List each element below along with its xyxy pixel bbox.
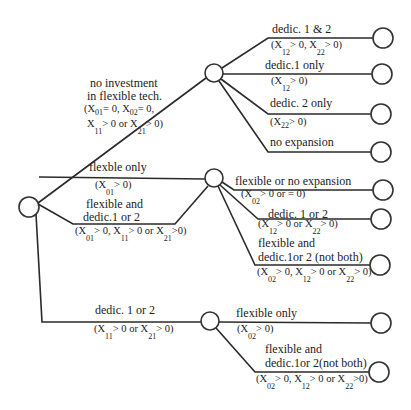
label-c-flexible-only: flexible only	[236, 307, 297, 319]
label-b-flexible-or-no-expansion: flexible or no expansion	[235, 175, 351, 187]
label-no-investment-line1: no investment	[90, 77, 158, 89]
leaf-node-b1	[373, 180, 393, 200]
label-dedic-1-or-2: dedic. 1 or 2	[95, 304, 155, 316]
cond-dedic-1-or-2: (X11> 0 or X21> 0)	[94, 324, 173, 335]
leaf-node-a1	[373, 28, 393, 48]
cond-a-dedic-1-and-2: (X12> 0, X22> 0)	[271, 40, 342, 51]
label-c-flexible-and-line1: flexible and	[265, 343, 322, 355]
root-decision-node	[19, 197, 39, 217]
label-a-dedic-1-only: dedic.1 only	[265, 59, 324, 71]
label-a-dedic-1-and-2: dedic. 1 & 2	[272, 23, 331, 35]
cond-b-dedic-1-or-2: (X12> 0 or X22> 0)	[258, 219, 338, 230]
cond-a-dedic-2-only: (X22> 0)	[270, 117, 306, 128]
label-flexible-and-line1: flexible and	[86, 198, 143, 210]
label-a-dedic-2-only: dedic. 2 only	[270, 97, 332, 109]
label-flexible-and-line2: dedic.1 or 2	[83, 211, 140, 223]
leaf-node-a3	[371, 104, 391, 124]
cond-c-flexible-and-dedic: (X02> 0, X12> 0 or X22>0)	[256, 374, 368, 385]
label-flexible-only: flexble only	[89, 161, 147, 173]
cond-flexible-only: (X01> 0)	[95, 180, 131, 191]
leaf-node-b3	[370, 255, 390, 275]
leaf-node-c1	[371, 313, 391, 333]
cond-a-dedic-1-only: (X12> 0)	[271, 76, 307, 87]
cond-no-investment-1: (X01= 0, X02= 0,	[84, 104, 154, 115]
label-a-no-expansion: no expansion	[270, 136, 334, 148]
node-c-dedicated	[201, 312, 219, 330]
cond-flexible-and-dedic: (X01> 0, X11> 0 or X21>0)	[75, 226, 187, 237]
node-a-no-investment	[205, 64, 223, 82]
cond-c-flexible-only: (X02> 0)	[237, 324, 273, 335]
decision-tree-graphic	[0, 0, 411, 410]
label-c-flexible-and-line2: dedic.1or 2(not both)	[265, 357, 367, 369]
label-b-flexible-and-line1: flexible and	[258, 237, 315, 249]
label-b-flexible-and-line2: dedic.1or 2 (not both)	[258, 251, 363, 263]
leaf-node-b2	[371, 209, 391, 229]
node-b-flexible	[205, 169, 223, 187]
cond-b-flexible-or-no-expansion: (X02> 0 or = 0)	[241, 189, 305, 200]
cond-b-flexible-and-dedic: (X02> 0, X12> 0 or X22> 0)	[257, 267, 371, 278]
label-no-investment-line2: in flexible tech.	[87, 90, 162, 102]
leaf-node-a2	[372, 64, 392, 84]
cond-no-investment-2: X11> 0 or X21> 0)	[87, 119, 163, 130]
leaf-node-c2	[369, 362, 389, 382]
leaf-node-a4	[371, 142, 391, 162]
